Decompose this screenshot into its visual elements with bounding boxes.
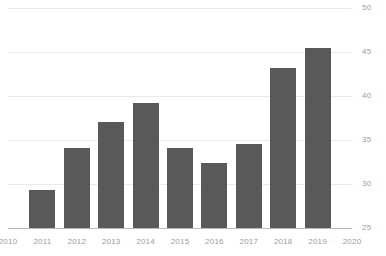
x-tick-label-2010: 2010 — [0, 238, 17, 246]
x-tick-label-2013: 2013 — [102, 238, 121, 246]
x-tick-label-2016: 2016 — [205, 238, 224, 246]
y-tick-label-45: 45 — [362, 48, 371, 56]
bar-2018[interactable] — [270, 68, 296, 228]
bar-2019[interactable] — [305, 48, 331, 228]
y-tick-label-25: 25 — [362, 224, 371, 232]
bar-2014[interactable] — [133, 103, 159, 228]
x-tick-label-2012: 2012 — [67, 238, 86, 246]
bar-2017[interactable] — [236, 144, 262, 228]
bar-2016[interactable] — [201, 163, 227, 228]
y-tick-label-50: 50 — [362, 4, 371, 12]
bar-chart: 253035404550 201020112012201320142015201… — [0, 0, 386, 256]
x-tick-label-2015: 2015 — [171, 238, 190, 246]
y-tick-label-30: 30 — [362, 180, 371, 188]
bar-2012[interactable] — [64, 148, 90, 228]
y-tick-label-35: 35 — [362, 136, 371, 144]
y-tick-label-40: 40 — [362, 92, 371, 100]
x-tick-label-2018: 2018 — [274, 238, 293, 246]
x-tick-label-2014: 2014 — [136, 238, 155, 246]
x-tick-label-2019: 2019 — [308, 238, 327, 246]
bars-layer — [8, 8, 352, 228]
x-tick-label-2017: 2017 — [239, 238, 258, 246]
x-tick-label-2011: 2011 — [33, 238, 51, 246]
bar-2015[interactable] — [167, 148, 193, 228]
bar-2011[interactable] — [29, 190, 55, 228]
x-tick-label-2020: 2020 — [343, 238, 362, 246]
x-axis-line — [8, 228, 352, 229]
bar-2013[interactable] — [98, 122, 124, 228]
